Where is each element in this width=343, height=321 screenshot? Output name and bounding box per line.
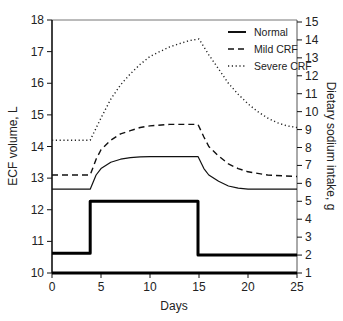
x-tick-label: 0 — [49, 280, 56, 294]
y2-axis-label: Dietary sodium intake, g — [324, 82, 338, 211]
legend-label: Normal — [254, 26, 288, 38]
y-tick-label: 16 — [31, 76, 45, 90]
y-tick-label: 13 — [31, 171, 45, 185]
y2-tick-label: 11 — [305, 87, 318, 101]
x-axis-label: Days — [160, 299, 187, 313]
x-axis: 0510152025 — [49, 273, 304, 294]
x-tick-label: 15 — [192, 280, 206, 294]
y2-tick-label: 3 — [305, 230, 312, 244]
y2-tick-label: 8 — [305, 141, 312, 155]
y-tick-label: 17 — [31, 45, 45, 59]
y2-tick-label: 1 — [305, 266, 312, 280]
y-tick-label: 14 — [31, 140, 45, 154]
series-dietary-sodium-intake — [52, 201, 297, 255]
y-tick-label: 10 — [31, 266, 45, 280]
y2-tick-label: 9 — [305, 123, 312, 137]
y-axis-label: ECF volume, L — [6, 106, 20, 186]
y2-tick-label: 2 — [305, 248, 312, 262]
legend-label: Mild CRF — [254, 43, 298, 55]
x-tick-label: 10 — [143, 280, 157, 294]
legend: NormalMild CRFSevere CRF — [228, 26, 312, 72]
y2-tick-label: 6 — [305, 176, 312, 190]
y2-tick-label: 7 — [305, 158, 312, 172]
left-y-axis: 101112131415161718 — [31, 13, 52, 280]
right-y-axis: 123456789101112131415 — [297, 15, 319, 280]
y-tick-label: 15 — [31, 108, 45, 122]
y-tick-label: 11 — [32, 234, 45, 248]
series-lines — [52, 39, 297, 273]
x-tick-label: 20 — [241, 280, 255, 294]
y2-tick-label: 10 — [305, 105, 319, 119]
y-tick-label: 12 — [31, 203, 45, 217]
series-normal — [52, 157, 297, 190]
chart-canvas: 101112131415161718 123456789101112131415… — [0, 0, 343, 321]
x-tick-label: 25 — [290, 280, 304, 294]
y2-tick-label: 15 — [305, 15, 319, 29]
y2-tick-label: 5 — [305, 194, 312, 208]
legend-label: Severe CRF — [254, 60, 312, 72]
y2-tick-label: 14 — [305, 33, 319, 47]
series-mild-crf — [52, 124, 297, 176]
y-tick-label: 18 — [31, 13, 45, 27]
y2-tick-label: 4 — [305, 212, 312, 226]
x-tick-label: 5 — [98, 280, 105, 294]
